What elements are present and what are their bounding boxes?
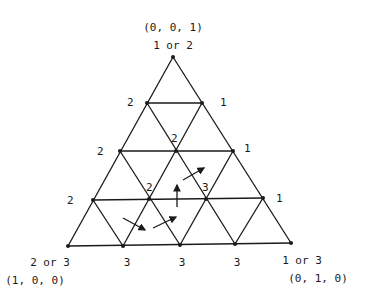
right-label-1: 1 [220, 96, 227, 109]
left-label-3: 2 [67, 194, 74, 207]
left-label-2: 2 [97, 145, 104, 158]
interior-label-2: 2 [146, 181, 153, 194]
top-label: 1 or 2 [153, 39, 193, 52]
arrow-1 [123, 218, 145, 230]
simplex-diagram: (0, 0, 1) 1 or 2 2 2 2 1 1 1 2 2 3 2 or … [0, 0, 365, 302]
bottom-label-2: 3 [179, 256, 186, 269]
top-coord: (0, 0, 1) [143, 21, 203, 34]
bottom-label-1: 3 [124, 256, 131, 269]
left-label-1: 2 [127, 96, 134, 109]
interior-label-3: 3 [202, 181, 209, 194]
bottom-right-label: 1 or 3 [282, 254, 322, 267]
interior-label-1: 2 [171, 132, 178, 145]
arrow-2 [153, 217, 176, 228]
bottom-right-coord: (0, 1, 0) [288, 272, 348, 285]
bottom-left-coord: (1, 0, 0) [5, 274, 65, 287]
right-label-2: 1 [244, 142, 251, 155]
bottom-label-3: 3 [234, 256, 241, 269]
right-label-3: 1 [276, 192, 283, 205]
bottom-left-label: 2 or 3 [30, 256, 70, 269]
